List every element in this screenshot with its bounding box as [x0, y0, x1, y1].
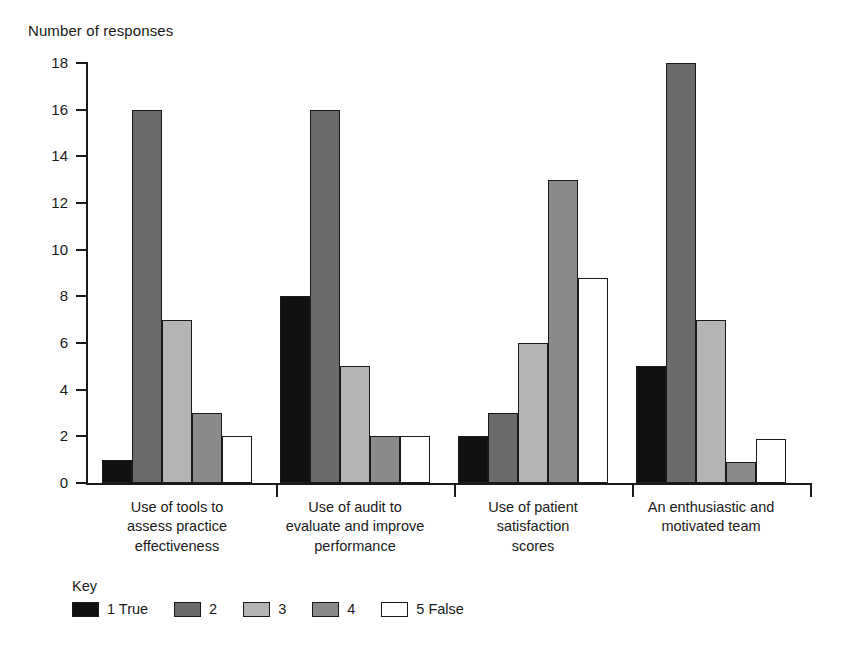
y-axis-tick: [76, 389, 86, 391]
x-axis-group-tick: [276, 485, 278, 497]
y-axis-tick-label: 16: [26, 102, 68, 117]
legend-item[interactable]: 1 True: [72, 601, 148, 617]
bar: [132, 110, 162, 483]
y-axis-tick-label: 4: [26, 382, 68, 397]
y-axis-tick-label: 6: [26, 335, 68, 350]
bar: [102, 460, 132, 483]
y-axis-tick-label: 10: [26, 242, 68, 257]
x-axis-category-label-line: evaluate and improve: [256, 517, 454, 536]
x-axis-category-label-line: Use of audit to: [256, 498, 454, 517]
legend-swatch-icon: [312, 602, 339, 617]
y-axis-tick-label: 18: [26, 55, 68, 70]
y-axis-tick: [76, 155, 86, 157]
legend-item-label: 3: [278, 601, 286, 617]
legend-item[interactable]: 4: [312, 601, 355, 617]
x-axis-category-label: Use of audit toevaluate and improveperfo…: [256, 498, 454, 556]
x-axis-category-label-line: effectiveness: [78, 537, 276, 556]
y-axis-tick: [76, 342, 86, 344]
legend-item[interactable]: 5 False: [381, 601, 464, 617]
legend: Key 1 True2345 False: [72, 578, 490, 617]
x-axis-category-label-line: scores: [434, 537, 632, 556]
bar: [400, 436, 430, 483]
legend-item[interactable]: 3: [243, 601, 286, 617]
bar: [518, 343, 548, 483]
bar: [578, 278, 608, 483]
bar: [726, 462, 756, 483]
x-axis-category-label-line: Use of tools to: [78, 498, 276, 517]
legend-swatch-icon: [174, 602, 201, 617]
bar: [222, 436, 252, 483]
y-axis-line: [86, 62, 88, 484]
y-axis-tick-label: 12: [26, 195, 68, 210]
x-axis-category-label-line: assess practice: [78, 517, 276, 536]
x-axis-category-label: Use of tools toassess practiceeffectiven…: [78, 498, 276, 556]
y-axis-tick-label: 14: [26, 148, 68, 163]
bar: [548, 180, 578, 483]
bar: [370, 436, 400, 483]
y-axis-tick: [76, 202, 86, 204]
bar: [310, 110, 340, 483]
y-axis-tick-label: 2: [26, 428, 68, 443]
y-axis-tick: [76, 249, 86, 251]
legend-swatch-icon: [243, 602, 270, 617]
x-axis-category-label-line: motivated team: [612, 517, 810, 536]
x-axis-category-label-line: An enthusiastic and: [612, 498, 810, 517]
x-axis-group-tick: [632, 485, 634, 497]
bar: [340, 366, 370, 483]
y-axis-tick-label: 8: [26, 288, 68, 303]
bar: [696, 320, 726, 483]
bar: [458, 436, 488, 483]
y-axis-tick: [76, 295, 86, 297]
bar: [488, 413, 518, 483]
bar: [162, 320, 192, 483]
legend-item-label: 5 False: [416, 601, 464, 617]
legend-swatch-icon: [72, 602, 99, 617]
legend-item[interactable]: 2: [174, 601, 217, 617]
x-axis-category-label-line: performance: [256, 537, 454, 556]
x-axis-category-label-line: Use of patient: [434, 498, 632, 517]
legend-item-label: 2: [209, 601, 217, 617]
legend-item-label: 4: [347, 601, 355, 617]
bar: [756, 439, 786, 483]
legend-swatch-icon: [381, 602, 408, 617]
plot-area: 024681012141618Use of tools toassess pra…: [0, 0, 862, 668]
x-axis-group-tick: [454, 485, 456, 497]
legend-item-label: 1 True: [107, 601, 148, 617]
bar-chart: Number of responses 024681012141618Use o…: [0, 0, 862, 668]
x-axis-group-tick: [810, 485, 812, 497]
y-axis-tick-label: 0: [26, 475, 68, 490]
x-axis-category-label: An enthusiastic andmotivated team: [612, 498, 810, 537]
y-axis-tick: [76, 109, 86, 111]
y-axis-tick: [76, 482, 86, 484]
bar: [636, 366, 666, 483]
bar: [192, 413, 222, 483]
legend-items: 1 True2345 False: [72, 601, 490, 617]
x-axis-category-label-line: satisfaction: [434, 517, 632, 536]
y-axis-tick: [76, 62, 86, 64]
x-axis-category-label: Use of patientsatisfactionscores: [434, 498, 632, 556]
y-axis-tick: [76, 435, 86, 437]
bar: [666, 63, 696, 483]
x-axis-line: [86, 483, 812, 485]
bar: [280, 296, 310, 483]
legend-title: Key: [72, 578, 490, 594]
